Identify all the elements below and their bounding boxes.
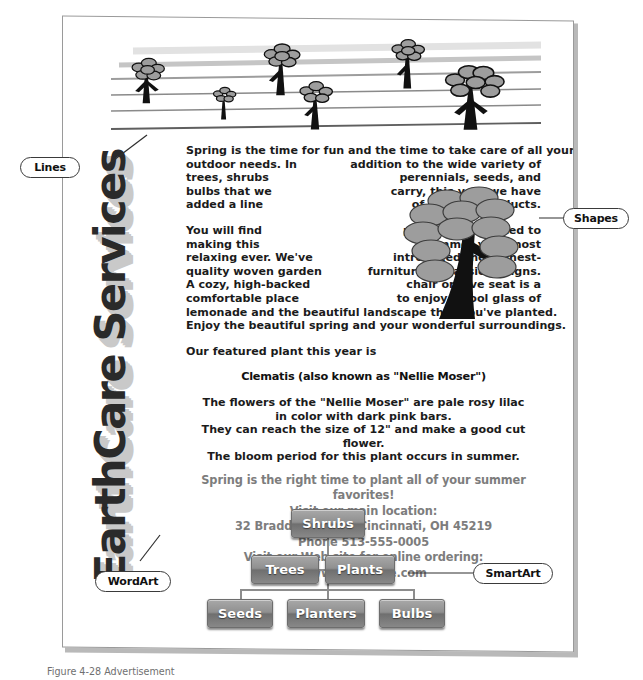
callout-label: WordArt <box>108 575 158 588</box>
callout-label: Shapes <box>574 212 618 225</box>
callout-lines[interactable]: Lines <box>20 157 80 178</box>
callout-shapes[interactable]: Shapes <box>563 208 629 229</box>
callout-label: SmartArt <box>485 567 540 580</box>
callout-label: Lines <box>34 161 66 174</box>
callout-wordart[interactable]: WordArt <box>95 571 171 592</box>
callout-smartart[interactable]: SmartArt <box>473 563 553 584</box>
figure-caption: Figure 4-28 Advertisement <box>47 666 467 677</box>
